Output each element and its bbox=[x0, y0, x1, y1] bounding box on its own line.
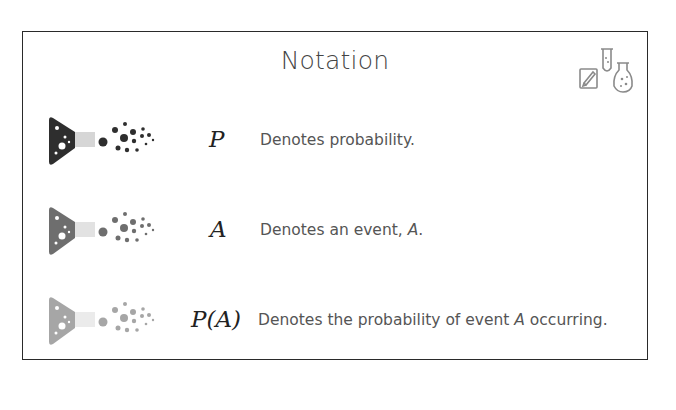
description-text: Denotes the probability of event bbox=[258, 311, 514, 329]
page-title: Notation bbox=[23, 46, 647, 75]
notation-row-probability-of-event: P(A) Denotes the probability of event A … bbox=[23, 292, 647, 352]
description-text: Denotes an event, bbox=[260, 221, 408, 239]
flask-particles-icon bbox=[45, 112, 175, 172]
pencil-testtube-flask-icon bbox=[577, 46, 641, 98]
flask-particles-icon bbox=[45, 202, 175, 262]
notation-symbol: P bbox=[209, 126, 224, 152]
description-variable: A bbox=[408, 221, 419, 239]
notation-card: Notation P D bbox=[22, 31, 648, 360]
description-text: occurring. bbox=[525, 311, 608, 329]
notation-symbol: P(A) bbox=[191, 306, 241, 332]
notation-symbol: A bbox=[210, 216, 227, 242]
notation-description: Denotes an event, A. bbox=[260, 221, 423, 239]
notation-row-event: A Denotes an event, A. bbox=[23, 202, 647, 262]
description-variable: A bbox=[514, 311, 525, 329]
notation-row-probability: P Denotes probability. bbox=[23, 112, 647, 172]
notation-description: Denotes the probability of event A occur… bbox=[258, 311, 608, 329]
notation-description: Denotes probability. bbox=[260, 131, 415, 149]
flask-particles-icon bbox=[45, 292, 175, 352]
description-text: . bbox=[418, 221, 423, 239]
